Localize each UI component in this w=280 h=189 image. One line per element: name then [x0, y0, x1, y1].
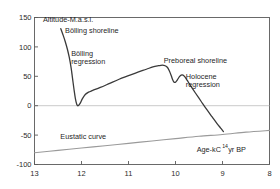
annotation-bolling-shoreline: Bölling shoreline: [65, 26, 119, 35]
x-axis-title-base: Age-kC: [197, 145, 221, 154]
x-axis-title-tail: yr BP: [228, 145, 246, 154]
y-tick-label: 0: [27, 101, 31, 110]
x-tick-label: 9: [220, 169, 224, 178]
annotation-preboreal-shoreline: Preboreal shoreline: [164, 56, 227, 65]
annotation-bolling-regression-line2: regression: [71, 57, 105, 66]
y-tick-label: 150: [19, 13, 32, 22]
x-axis-title-superscript: 14: [222, 143, 228, 149]
x-tick-label: 13: [30, 169, 38, 178]
chart-figure: 150100500-50-100 1312111098 Altitude-M.a…: [0, 0, 280, 189]
x-tick-label: 11: [125, 169, 133, 178]
y-tick-label: 100: [19, 43, 32, 52]
chart-frame: [35, 18, 270, 165]
x-tick-label: 10: [171, 169, 179, 178]
annotation-holocene-regression-line2: regression: [186, 80, 220, 89]
y-tick-label: -50: [21, 131, 32, 140]
x-axis-tick-labels: 1312111098: [30, 169, 271, 178]
x-tick-label: 12: [77, 169, 85, 178]
y-axis-tick-labels: 150100500-50-100: [16, 13, 31, 169]
shoreline-displacement-chart: 150100500-50-100 1312111098 Altitude-M.a…: [0, 0, 280, 189]
x-tick-label: 8: [267, 169, 271, 178]
annotation-eustatic-curve-label: Eustatic curve: [60, 132, 106, 141]
annotation-y-axis-title: Altitude-M.a.s.l.: [43, 15, 93, 24]
plot-area-border: [35, 18, 270, 165]
y-tick-label: 50: [23, 72, 31, 81]
y-tick-label: -100: [16, 160, 31, 169]
